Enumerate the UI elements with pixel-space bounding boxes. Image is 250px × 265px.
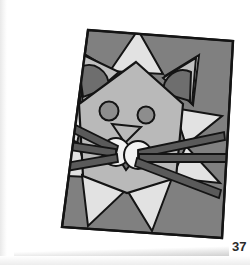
whisker-right-middle <box>139 154 227 162</box>
cat-face-figure <box>0 0 250 265</box>
page-number: 37 <box>232 240 248 253</box>
scanned-page: 37 <box>0 0 250 265</box>
eye-right <box>138 107 155 124</box>
eye-left <box>100 102 119 121</box>
